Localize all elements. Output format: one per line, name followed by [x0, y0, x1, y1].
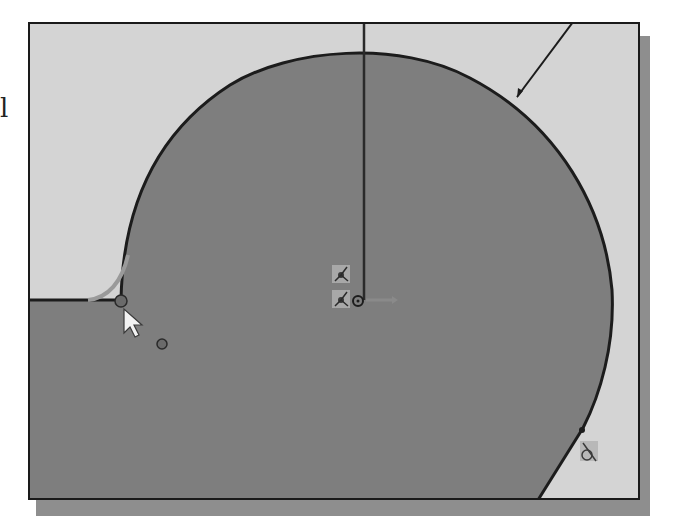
stray-text-mark: l	[0, 93, 6, 123]
endpoint-dot[interactable]	[115, 295, 127, 307]
sketch-profile-region[interactable]	[28, 53, 612, 500]
coincident-constraint-icon-1[interactable]	[332, 265, 350, 283]
graphics-viewport[interactable]	[28, 22, 640, 500]
sketch-canvas[interactable]	[28, 22, 640, 500]
diagonal-leader-line[interactable]	[517, 22, 573, 97]
inference-point-dot[interactable]	[157, 339, 167, 349]
tangent-constraint-icon[interactable]	[580, 441, 598, 461]
slanted-line-endpoint[interactable]	[579, 427, 585, 433]
coincident-constraint-icon-2[interactable]	[332, 290, 350, 308]
